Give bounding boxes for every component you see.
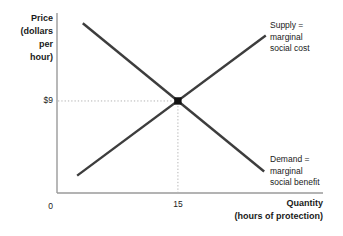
supply-curve-label: Supply = marginal social cost: [270, 20, 310, 55]
supply-demand-chart: Price (dollars per hour) $9 0 15 Quantit…: [0, 0, 343, 236]
supply-curve-label-line: social cost: [270, 43, 310, 55]
x-axis-title: Quantity (hours of protection): [178, 197, 323, 222]
equilibrium-point-marker: [174, 97, 181, 104]
y-axis-tick-label-price: $9: [0, 95, 53, 105]
demand-curve-label-line: marginal: [270, 166, 320, 178]
supply-curve-label-line: marginal: [270, 32, 310, 44]
x-axis-title-line: (hours of protection): [178, 210, 323, 223]
demand-curve-label-line: social benefit: [270, 177, 320, 189]
demand-curve-label-line: Demand =: [270, 154, 320, 166]
origin-tick-label: 0: [0, 201, 53, 211]
demand-curve: [83, 23, 264, 171]
y-axis-title-line: (dollars: [0, 25, 53, 38]
demand-curve-label: Demand = marginal social benefit: [270, 154, 320, 189]
y-axis-title-line: Price: [0, 12, 53, 25]
y-axis-title-line: per: [0, 38, 53, 51]
x-axis-title-line: Quantity: [178, 197, 323, 210]
supply-curve: [77, 36, 266, 176]
y-axis-title: Price (dollars per hour): [0, 12, 53, 64]
y-axis-title-line: hour): [0, 51, 53, 64]
supply-curve-label-line: Supply =: [270, 20, 310, 32]
